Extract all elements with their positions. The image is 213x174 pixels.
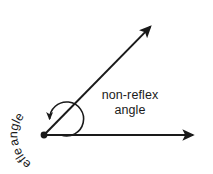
reflex-angle-arc	[50, 102, 84, 136]
vertex-point	[41, 132, 48, 139]
reflex-angle-curved-label: angle reflex	[0, 0, 33, 172]
non-reflex-label-line2: angle	[114, 103, 145, 117]
rays-group	[44, 27, 193, 135]
geometry-figure-svg: non-reflex angle angle reflex	[0, 0, 213, 174]
angle-diagram: non-reflex angle angle reflex	[0, 0, 213, 174]
non-reflex-label-line1: non-reflex	[102, 88, 159, 102]
reflex-arc-group	[50, 102, 84, 136]
reflex-label-angle-textpath: angle	[6, 110, 27, 148]
diagonal-ray	[44, 27, 151, 135]
reflex-label-angle-word: angle	[6, 110, 27, 148]
reflex-label-reflex-word: reflex	[0, 0, 33, 172]
non-reflex-angle-label: non-reflex angle	[102, 88, 159, 117]
reflex-label-reflex-textpath: reflex	[0, 0, 33, 172]
